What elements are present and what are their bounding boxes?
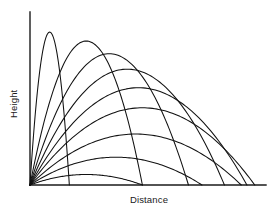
projectile-motion-figure: Distance Height [0, 0, 276, 212]
axes-group [30, 12, 266, 185]
trajectory-curve [30, 69, 224, 185]
trajectory-curve [30, 175, 142, 186]
trajectory-group [30, 32, 255, 185]
x-axis-label: Distance [0, 195, 276, 205]
y-axis-label: Height [9, 90, 19, 118]
plot-canvas [0, 0, 276, 212]
trajectory-curve [30, 134, 241, 185]
trajectory-curve [30, 32, 69, 185]
trajectory-curve [30, 157, 202, 185]
